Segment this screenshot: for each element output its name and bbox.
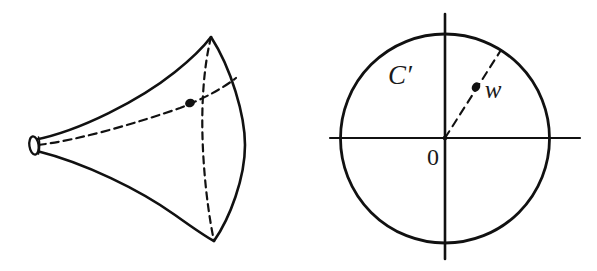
circle-label: C′: [388, 60, 413, 90]
origin-label: 0: [427, 144, 439, 170]
origin-dot: [443, 136, 448, 141]
upper-silhouette-curve: [34, 37, 211, 140]
rim-front-arc: [211, 37, 245, 241]
disk-marked-point: [470, 81, 482, 94]
figure-canvas: C′ 0 w: [0, 0, 597, 271]
unit-disk-panel: C′ 0 w: [330, 14, 580, 259]
meridian-dashed-curve: [38, 78, 236, 145]
point-w-label: w: [485, 76, 502, 103]
lower-silhouette-curve: [37, 151, 214, 241]
pseudosphere-panel: [28, 37, 245, 241]
rim-back-arc: [202, 37, 214, 241]
surface-marked-point: [184, 97, 196, 108]
